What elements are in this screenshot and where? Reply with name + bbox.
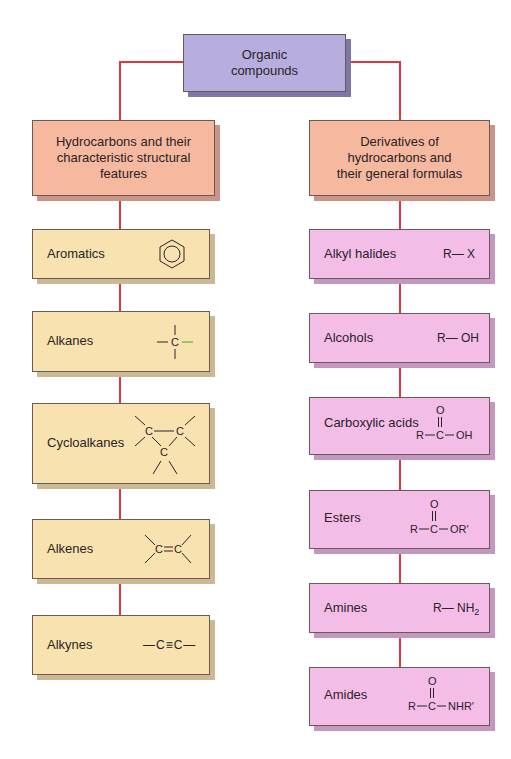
derivatives-header-line3: their general formulas <box>310 166 489 182</box>
hydrocarbons-header-line3: features <box>33 166 214 182</box>
amine-formula-subscript: 2 <box>474 607 479 617</box>
node-label: Esters <box>324 510 361 525</box>
svg-text:C: C <box>145 425 153 437</box>
node-label: Alkenes <box>47 541 93 556</box>
svg-text:C: C <box>436 429 444 441</box>
node-label: Alcohols <box>324 330 373 345</box>
alkene-double-bond-icon: C C <box>143 533 193 567</box>
carboxylic-acid-formula-icon: O R C OH <box>414 404 484 448</box>
alkyl-halide-formula: R— X <box>443 247 475 261</box>
derivatives-header-line2: hydrocarbons and <box>310 150 489 166</box>
hydrocarbons-header-line1: Hydrocarbons and their <box>33 134 214 150</box>
derivatives-header: Derivatives of hydrocarbons and their ge… <box>309 120 490 196</box>
ester-formula-icon: O R C OR′ <box>408 498 478 542</box>
node-label: Alkynes <box>47 637 93 652</box>
node-label: Amides <box>324 687 367 702</box>
svg-text:R: R <box>416 429 424 441</box>
benzene-ring-icon <box>157 239 187 269</box>
root-node-organic-compounds: Organic compounds <box>183 34 346 92</box>
connector-root-right-h <box>346 61 401 63</box>
node-label: Cycloalkanes <box>47 435 124 450</box>
node-alkenes: Alkenes C C <box>32 519 210 579</box>
svg-text:R: R <box>408 700 416 712</box>
node-carboxylic-acids: Carboxylic acids O R C OH <box>309 397 490 455</box>
node-label: Alkyl halides <box>324 246 396 261</box>
node-alcohols: Alcohols R— OH <box>309 313 490 363</box>
node-aromatics: Aromatics <box>32 229 210 279</box>
node-label: Aromatics <box>47 246 105 261</box>
node-alkynes: Alkynes —C≡C— <box>32 615 210 675</box>
node-alkyl-halides: Alkyl halides R— X <box>309 229 490 279</box>
svg-text:R: R <box>410 523 418 535</box>
svg-text:C: C <box>155 543 163 555</box>
connector-root-left-h <box>120 61 184 63</box>
node-alkanes: Alkanes C <box>32 311 210 372</box>
svg-text:C: C <box>174 543 182 555</box>
node-esters: Esters O R C OR′ <box>309 490 490 549</box>
svg-text:OR′: OR′ <box>450 523 469 535</box>
svg-text:NHR′: NHR′ <box>448 700 474 712</box>
derivatives-header-line1: Derivatives of <box>310 134 489 150</box>
svg-text:C: C <box>160 446 168 458</box>
node-label: Amines <box>324 600 367 615</box>
alcohol-formula: R— OH <box>437 331 479 345</box>
hydrocarbons-header-line2: characteristic structural <box>33 150 214 166</box>
svg-text:O: O <box>436 404 445 416</box>
svg-text:O: O <box>430 498 439 510</box>
amide-formula-icon: O R C NHR′ <box>406 675 486 719</box>
node-cycloalkanes: Cycloalkanes C C C <box>32 403 210 484</box>
amine-formula-base: R— NH <box>433 601 474 615</box>
svg-text:O: O <box>428 675 437 687</box>
cyclopropane-structure-icon: C C C <box>133 412 197 476</box>
hydrocarbons-header: Hydrocarbons and their characteristic st… <box>32 120 215 196</box>
root-label-line2: compounds <box>184 63 345 79</box>
alkane-carbon-structure-icon: C <box>155 325 195 359</box>
node-amides: Amides O R C NHR′ <box>309 667 490 726</box>
node-label: Alkanes <box>47 333 93 348</box>
root-label-line1: Organic <box>184 47 345 63</box>
svg-text:C: C <box>428 700 436 712</box>
svg-text:C: C <box>430 523 438 535</box>
node-amines: Amines R— NH2 <box>309 583 490 633</box>
alkane-c-label: C <box>171 336 179 348</box>
node-label: Carboxylic acids <box>324 415 419 430</box>
amine-formula: R— NH2 <box>433 601 479 617</box>
alkyne-triple-bond-formula: —C≡C— <box>143 638 196 652</box>
svg-text:C: C <box>176 425 184 437</box>
svg-text:OH: OH <box>456 429 473 441</box>
